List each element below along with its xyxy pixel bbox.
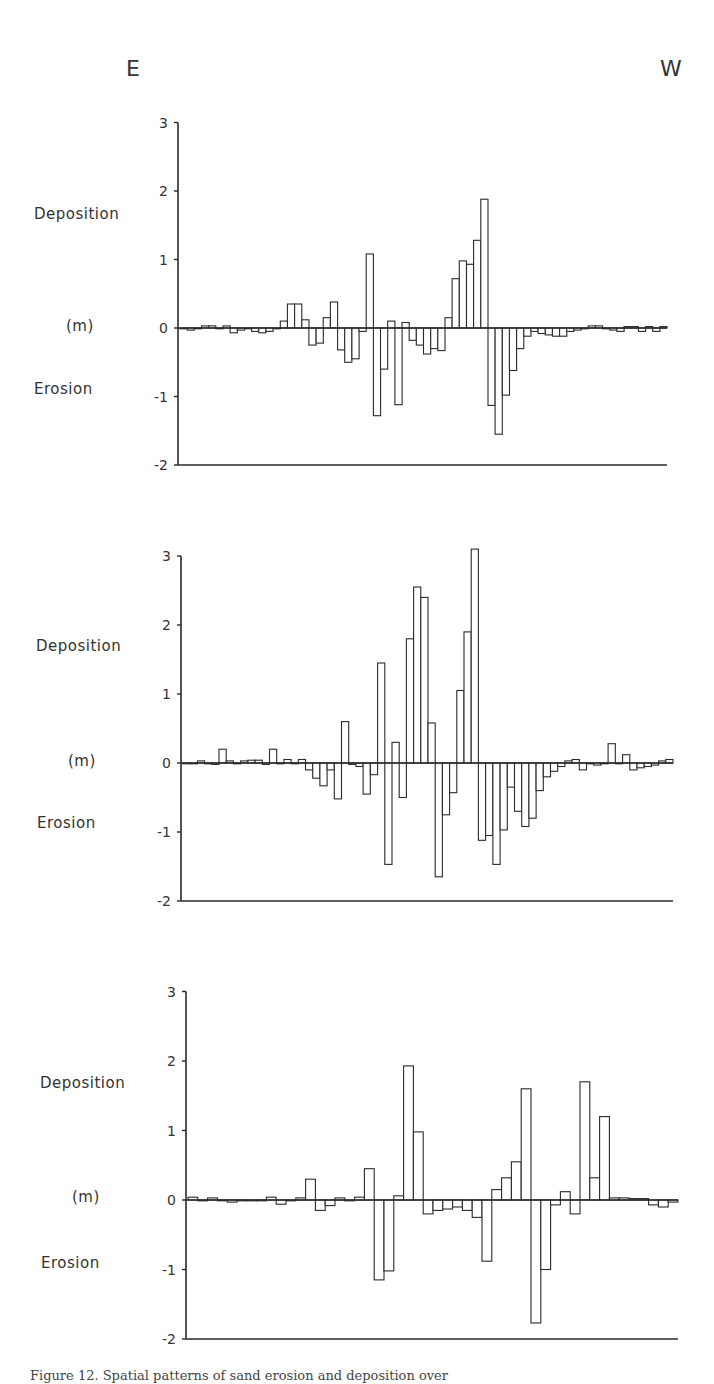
- bar: [374, 1200, 384, 1280]
- bar: [541, 1200, 551, 1270]
- y-tick-label: 1: [167, 1123, 176, 1139]
- bar: [413, 1132, 423, 1200]
- bar: [521, 1089, 531, 1200]
- bar: [482, 1200, 492, 1261]
- bar: [472, 1200, 482, 1217]
- bar-chart-3: -2-10123: [0, 0, 714, 1384]
- bar: [443, 1200, 453, 1209]
- bar: [590, 1178, 600, 1200]
- bar: [315, 1200, 325, 1210]
- bar: [570, 1200, 580, 1214]
- bar: [492, 1190, 502, 1200]
- bar: [580, 1082, 590, 1200]
- bar: [306, 1179, 316, 1200]
- bar: [531, 1200, 541, 1323]
- bar: [511, 1162, 521, 1200]
- bar: [433, 1200, 443, 1210]
- bar: [423, 1200, 433, 1214]
- y-tick-label: 3: [167, 984, 176, 1000]
- bar: [462, 1200, 472, 1210]
- bar: [325, 1200, 335, 1206]
- bar: [600, 1117, 610, 1200]
- bar: [502, 1178, 512, 1200]
- bar: [453, 1200, 463, 1207]
- bar: [384, 1200, 394, 1271]
- bar: [658, 1200, 668, 1207]
- figure-caption: Figure 12. Spatial patterns of sand eros…: [30, 1368, 448, 1383]
- bar: [560, 1192, 570, 1200]
- y-tick-label: 2: [167, 1053, 176, 1069]
- y-tick-label: 0: [167, 1192, 176, 1208]
- bar: [404, 1066, 414, 1200]
- bar: [364, 1169, 374, 1200]
- y-tick-label: -2: [162, 1331, 176, 1347]
- y-tick-label: -1: [162, 1262, 176, 1278]
